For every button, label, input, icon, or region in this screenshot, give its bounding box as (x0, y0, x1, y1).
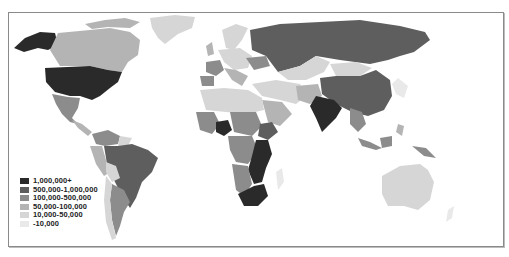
region-mexico (52, 94, 80, 124)
region-new-guinea (412, 146, 436, 158)
region-philippines (396, 124, 404, 136)
legend-swatch (20, 221, 29, 227)
legend-item: 10,000-50,000 (20, 211, 98, 219)
region-ukraine (246, 56, 270, 70)
region-canada-islands (85, 18, 140, 29)
legend-swatch (20, 204, 29, 210)
region-scandinavia (222, 24, 248, 50)
legend-item: 100,000-500,000 (20, 194, 98, 202)
legend-label: 10,000-50,000 (33, 211, 83, 219)
legend-item: 1,000,000+ (20, 177, 98, 185)
legend-swatch (20, 187, 29, 193)
region-north-africa (200, 88, 264, 114)
legend-label: 1,000,000+ (33, 177, 72, 185)
region-nigeria (216, 120, 232, 136)
legend-swatch (20, 178, 29, 184)
region-korea-japan (392, 78, 408, 98)
region-spain (200, 76, 214, 86)
region-new-zealand (446, 206, 454, 222)
region-arabia (262, 100, 292, 126)
legend-swatch (20, 212, 29, 218)
region-australia (382, 164, 434, 210)
legend-label: 100,000-500,000 (33, 194, 91, 202)
region-canada (50, 28, 140, 72)
region-colombia-venezuela (92, 130, 120, 146)
legend-label: -10,000 (33, 220, 59, 228)
region-borneo (380, 136, 392, 148)
legend-swatch (20, 195, 29, 201)
region-madagascar (276, 168, 284, 190)
region-indonesia (358, 138, 382, 150)
region-chad-sudan (230, 112, 262, 136)
legend: 1,000,000+ 500,000-1,000,000 100,000-500… (20, 177, 98, 228)
region-ethiopia (258, 122, 278, 140)
region-central-america (72, 120, 92, 136)
region-uk (206, 42, 214, 56)
region-greenland (150, 15, 195, 44)
region-italy-balkans (224, 68, 248, 86)
region-france (206, 60, 224, 76)
legend-item: -10,000 (20, 220, 98, 228)
